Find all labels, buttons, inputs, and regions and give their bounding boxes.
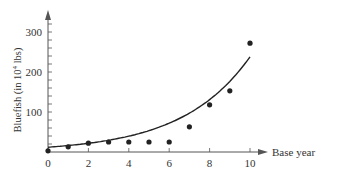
y-axis-arrow-icon [45,10,51,20]
y-tick-label: 300 [26,26,43,38]
data-point [187,124,192,129]
data-point [106,139,111,144]
x-tick-label: 8 [207,157,213,169]
bluefish-chart: 100200300 0246810 Base year Bluefish (in… [0,0,337,185]
y-axis-label: Bluefish (in 104 lbs) [11,47,24,132]
data-point [207,102,212,107]
data-point [167,139,172,144]
x-tick-label: 0 [45,157,51,169]
fit-curve [48,57,250,147]
data-point [45,148,50,153]
x-tick-label: 2 [86,157,92,169]
x-axis-arrow-icon [258,149,268,155]
x-axis: 0246810 [45,148,268,169]
data-point [86,141,91,146]
data-point [247,41,252,46]
data-point [227,88,232,93]
data-point [146,139,151,144]
y-tick-label: 100 [26,106,43,118]
x-tick-label: 10 [245,157,257,169]
x-tick-label: 4 [126,157,132,169]
x-axis-label: Base year [272,146,315,158]
x-tick-label: 6 [166,157,172,169]
y-axis: 100200300 [26,10,53,152]
data-point [66,144,71,149]
data-point [126,139,131,144]
data-points [45,41,252,154]
y-tick-label: 200 [26,66,43,78]
